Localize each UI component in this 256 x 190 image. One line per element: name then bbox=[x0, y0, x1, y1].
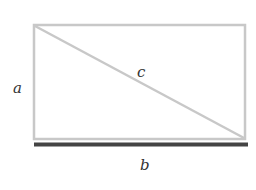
label-diagonal-c: c bbox=[137, 63, 146, 81]
diagonal-line bbox=[35, 26, 244, 138]
label-side-b: b bbox=[140, 156, 150, 174]
rectangle-diagonal-diagram: a c b bbox=[0, 0, 256, 190]
label-side-a: a bbox=[13, 79, 22, 97]
